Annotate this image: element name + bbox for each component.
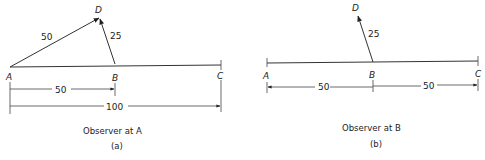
- vector-bd-a: [100, 19, 115, 64]
- point-label-c-b: C: [475, 69, 482, 79]
- diagram-canvas: D A B C 50 25 50 100 Observer at A (a) D…: [0, 0, 485, 160]
- point-label-d-b: D: [352, 3, 359, 13]
- caption-a: Observer at A: [83, 126, 142, 136]
- vector-label-bd: 25: [110, 31, 121, 41]
- baseline-a: [10, 65, 221, 67]
- vector-bd-b: [358, 16, 373, 62]
- point-label-a: A: [5, 72, 12, 82]
- dim-label-ba: 50: [318, 82, 330, 92]
- panel-b: D A B C 25 50 50 Observer at B (b): [262, 3, 482, 149]
- caption-b: Observer at B: [342, 123, 401, 133]
- dim-label-ab: 50: [55, 85, 67, 95]
- point-label-d: D: [95, 5, 102, 15]
- dim-label-ac: 100: [106, 102, 123, 112]
- point-label-a-b: A: [262, 71, 269, 81]
- point-label-b-b: B: [369, 70, 375, 80]
- sublabel-b: (b): [370, 139, 382, 149]
- vector-label-ad: 50: [41, 32, 53, 42]
- vector-label-bd-b: 25: [368, 29, 379, 39]
- point-label-c: C: [217, 71, 224, 81]
- sublabel-a: (a): [111, 141, 123, 151]
- point-label-b: B: [112, 73, 118, 83]
- vector-ad-a: [10, 18, 99, 67]
- panel-a: D A B C 50 25 50 100 Observer at A (a): [5, 5, 224, 151]
- dim-label-bc: 50: [423, 81, 435, 91]
